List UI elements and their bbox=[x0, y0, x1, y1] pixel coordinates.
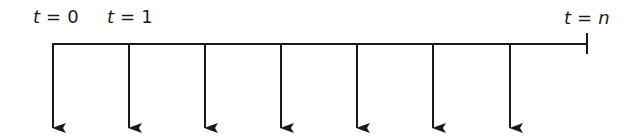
timeline-axis bbox=[52, 33, 587, 54]
label-t0: t=0 bbox=[33, 6, 79, 27]
cash-flow-timeline: t=0 t=1 t=n bbox=[0, 0, 634, 136]
time-labels: t=0 t=1 t=n bbox=[33, 6, 610, 28]
label-t1: t=1 bbox=[107, 6, 153, 27]
label-tn: t=n bbox=[564, 7, 610, 28]
cash-flow-arrows bbox=[53, 44, 510, 128]
